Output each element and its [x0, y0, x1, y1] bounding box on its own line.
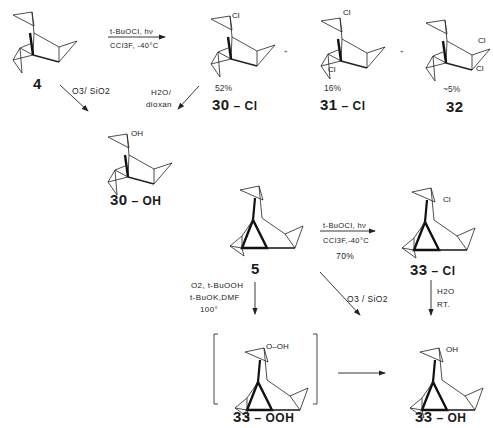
yield-31-cl: 16%	[324, 83, 341, 93]
structure-33-cl	[402, 188, 475, 258]
structure-4	[13, 12, 77, 73]
compound-label-30-cl: 30 – Cl	[212, 96, 258, 113]
atom-oh-33: OH	[446, 345, 458, 354]
plus-sign: +	[400, 48, 404, 54]
atom-ooh-33: O–OH	[266, 342, 289, 351]
reagent-r6: O3 / SiO2	[347, 294, 388, 305]
compound-label-4: 4	[33, 75, 42, 92]
atom-cl-31b: Cl	[328, 65, 336, 74]
reagent-r2: O3/ SiO2	[72, 86, 110, 97]
plus-sign: +	[284, 48, 288, 54]
atom-cl-31a: Cl	[343, 8, 351, 17]
reagent-r4-above: t-BuOCl, hν	[323, 220, 366, 231]
reagent-r5-line3: 100°	[200, 304, 218, 315]
reaction-scheme-drawing	[0, 0, 493, 428]
atom-cl-32b: Cl	[476, 64, 484, 73]
compound-label-31-cl: 31 – Cl	[320, 96, 366, 113]
structure-30-cl	[211, 16, 275, 77]
reagent-r1-above: t-BuOCl, hν	[110, 26, 153, 37]
yield-32: ~5%	[443, 84, 460, 94]
reagent-r5-line2: t-BuOK,DMF	[190, 292, 240, 303]
reagent-r7-line1: H2O	[437, 286, 455, 297]
reagent-r4-below: CCl3F,-40°C	[323, 235, 369, 246]
atom-cl-30: Cl	[232, 11, 240, 20]
compound-label-32: 32	[446, 98, 464, 115]
compound-label-5: 5	[251, 260, 260, 277]
reagent-r1-below: CCl3F, -40°C	[110, 40, 159, 51]
yield-30-cl: 52%	[215, 83, 232, 93]
bracket-right	[313, 334, 317, 404]
arrow-30cl-to-30oh	[178, 86, 199, 109]
structure-5	[230, 186, 303, 256]
atom-cl-33: Cl	[443, 195, 451, 204]
atom-oh-30: OH	[131, 129, 143, 138]
compound-label-30-oh: 30 – OH	[110, 191, 162, 208]
compound-label-33-cl: 33 – Cl	[410, 261, 456, 278]
reagent-r3-line1: H2O/	[151, 87, 171, 98]
structure-30-oh	[108, 134, 172, 195]
reagent-r4-yield: 70%	[336, 251, 354, 262]
atom-cl-32a: Cl	[478, 36, 486, 45]
compound-label-33-ooh: 33 – OOH	[233, 408, 294, 425]
reagent-r7-line2: RT.	[437, 299, 450, 310]
compound-label-33-oh: 33 – OH	[415, 408, 467, 425]
bracket-left	[214, 334, 218, 404]
reagent-r3-line2: dioxan	[146, 99, 172, 110]
reagent-r5-line1: O2, t-BuOOH	[191, 280, 243, 291]
